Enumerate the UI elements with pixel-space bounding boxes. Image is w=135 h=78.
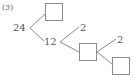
root-value-label: 24 xyxy=(13,23,26,33)
branch-mid-value-label: 12 xyxy=(44,37,57,47)
factor-a-value-label: 2 xyxy=(80,23,86,33)
edge-twelve-to-factor-a xyxy=(60,27,79,42)
edge-box-middle-to-box-bottom xyxy=(97,52,112,64)
box-top[interactable] xyxy=(46,4,63,21)
factor-tree-figure: (3) 24 12 2 2 xyxy=(0,0,135,78)
edge-twelve-to-box-middle xyxy=(60,42,79,52)
edge-root-to-twelve xyxy=(30,28,44,41)
edge-box-middle-to-factor-b xyxy=(97,39,116,52)
tree-graphics xyxy=(0,0,135,78)
box-bottom[interactable] xyxy=(113,58,130,75)
item-number-label: (3) xyxy=(2,4,13,12)
edge-root-to-box-top xyxy=(30,14,45,28)
factor-b-value-label: 2 xyxy=(117,35,123,45)
box-middle[interactable] xyxy=(80,44,97,61)
